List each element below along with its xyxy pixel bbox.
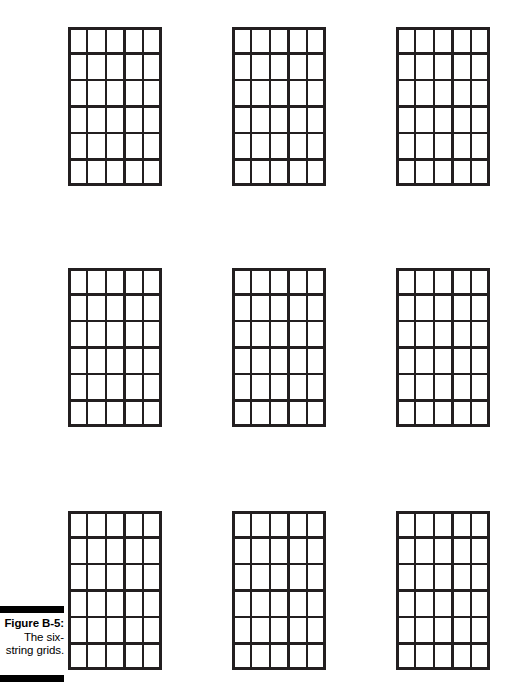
chord-grid-1-1[interactable] [68, 27, 162, 186]
figure-caption-text: Figure B-5: The six- string grids. [0, 617, 64, 658]
figure-page: Figure B-5: The six- string grids. [0, 0, 523, 697]
figure-caption-line-2: string grids. [0, 644, 64, 658]
figure-caption-title: Figure B-5: [0, 617, 64, 631]
figure-caption-block: Figure B-5: The six- string grids. [0, 606, 68, 682]
figure-caption-line-1: The six- [0, 631, 64, 645]
chord-grid-2-2[interactable] [232, 268, 326, 427]
chord-grid-3-1[interactable] [68, 511, 162, 670]
caption-rule-top [0, 606, 64, 613]
chord-grid-1-2[interactable] [232, 27, 326, 186]
chord-grid-1-3[interactable] [396, 27, 490, 186]
chord-grid-2-3[interactable] [396, 268, 490, 427]
chord-grid-3-2[interactable] [232, 511, 326, 670]
caption-rule-bottom [0, 675, 64, 682]
chord-grid-2-1[interactable] [68, 268, 162, 427]
chord-grid-3-3[interactable] [396, 511, 490, 670]
